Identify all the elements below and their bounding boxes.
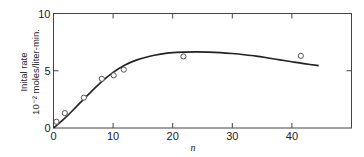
y-tick-label: 0 bbox=[44, 122, 50, 134]
data-point-marker bbox=[99, 76, 104, 81]
x-tick-label: 0 bbox=[50, 130, 56, 142]
data-point-marker bbox=[54, 119, 59, 124]
x-tick-label: 10 bbox=[107, 130, 119, 142]
y-tick-label: 5 bbox=[44, 65, 50, 77]
data-point-marker bbox=[181, 54, 186, 59]
data-point-marker bbox=[298, 53, 303, 58]
plot-frame bbox=[54, 14, 352, 129]
data-point-marker bbox=[62, 111, 67, 116]
data-markers bbox=[54, 53, 304, 124]
y-axis-label: Inital rate bbox=[18, 52, 29, 91]
x-tick-label: 40 bbox=[286, 130, 298, 142]
fitted-curve bbox=[54, 52, 319, 128]
axis-ticks bbox=[54, 14, 352, 129]
chart: 0102030400510 Inital rate 10⁻² moles/lit… bbox=[0, 0, 364, 157]
y-axis-units: 10⁻² moles/liter-min. bbox=[30, 29, 41, 115]
axis-tick-labels: 0102030400510 bbox=[38, 8, 298, 143]
data-point-marker bbox=[81, 95, 86, 100]
data-point-marker bbox=[121, 67, 126, 72]
y-tick-label: 10 bbox=[38, 8, 50, 20]
x-axis-label: n bbox=[191, 142, 196, 153]
x-tick-label: 30 bbox=[226, 130, 238, 142]
x-tick-label: 20 bbox=[167, 130, 179, 142]
data-point-marker bbox=[111, 73, 116, 78]
